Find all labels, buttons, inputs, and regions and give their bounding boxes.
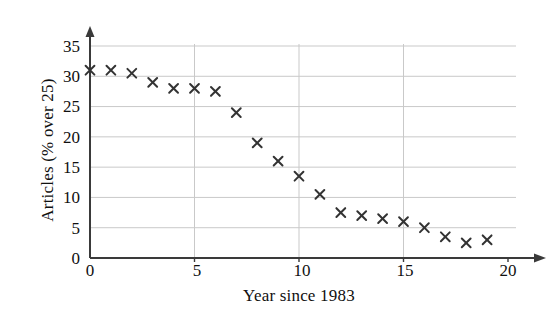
data-point bbox=[274, 157, 283, 166]
gridlines bbox=[90, 44, 516, 258]
y-tick-15: 15 bbox=[46, 159, 80, 176]
x-tick-5: 5 bbox=[177, 262, 217, 279]
y-tick-35: 35 bbox=[46, 38, 80, 55]
y-tick-20: 20 bbox=[46, 129, 80, 146]
data-point bbox=[357, 211, 366, 220]
data-point bbox=[253, 139, 262, 148]
x-tick-10: 10 bbox=[282, 262, 322, 279]
x-axis-label: Year since 1983 bbox=[90, 286, 508, 306]
y-tick-30: 30 bbox=[46, 68, 80, 85]
data-point bbox=[107, 66, 116, 75]
axes bbox=[86, 26, 547, 263]
data-point bbox=[378, 214, 387, 223]
y-tick-10: 10 bbox=[46, 189, 80, 206]
data-point bbox=[148, 78, 157, 87]
data-point bbox=[462, 238, 471, 247]
x-axis-tick-labels: 0 5 10 15 20 bbox=[0, 262, 548, 286]
y-tick-25: 25 bbox=[46, 98, 80, 115]
data-point bbox=[211, 87, 220, 96]
y-tick-5: 5 bbox=[46, 220, 80, 237]
data-point bbox=[336, 208, 345, 217]
x-tick-15: 15 bbox=[385, 262, 425, 279]
scatter-chart: Articles (% over 25) Year since 1983 35 … bbox=[0, 0, 548, 319]
data-point bbox=[483, 235, 492, 244]
x-tick-0: 0 bbox=[70, 262, 110, 279]
data-point bbox=[232, 108, 241, 117]
data-point bbox=[169, 84, 178, 93]
x-tick-20: 20 bbox=[488, 262, 528, 279]
data-points bbox=[86, 66, 492, 247]
data-point bbox=[441, 232, 450, 241]
